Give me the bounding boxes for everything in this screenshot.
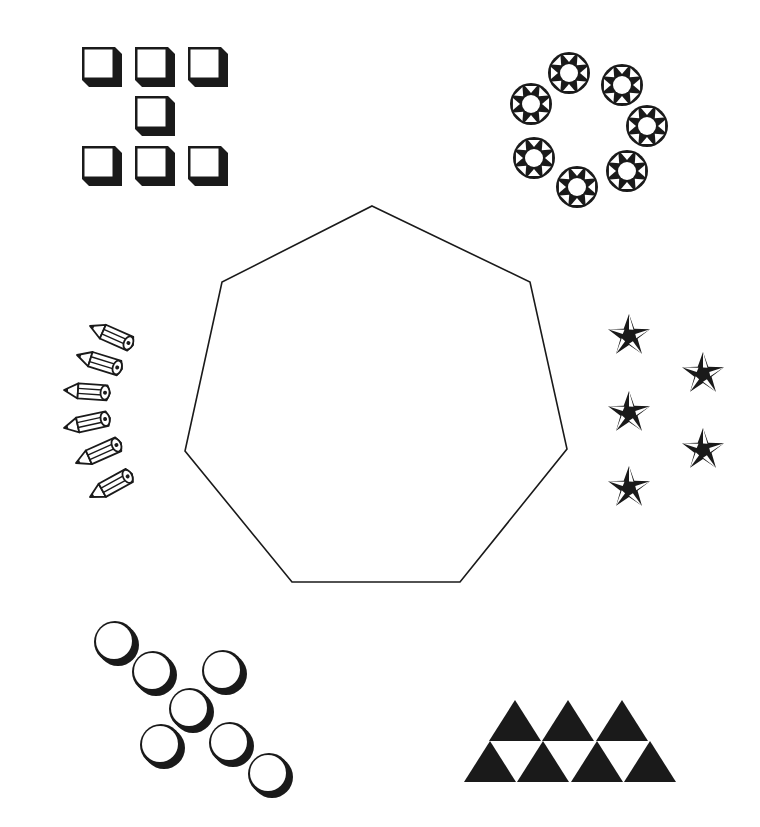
star-group xyxy=(608,314,724,506)
cube-icon xyxy=(188,47,228,87)
cube-icon xyxy=(82,146,122,186)
sun-ring-icon xyxy=(606,150,648,192)
sun-ring-group xyxy=(510,52,668,208)
triangle-icon xyxy=(624,741,676,782)
circle-icon xyxy=(248,753,293,798)
sun-ring-icon xyxy=(513,137,555,179)
circle-group xyxy=(94,621,293,798)
cube-group xyxy=(82,47,228,186)
pencil-icon xyxy=(75,348,124,376)
cube-icon xyxy=(135,47,175,87)
circle-icon xyxy=(209,722,254,767)
sun-ring-icon xyxy=(626,105,668,147)
pencil-icon xyxy=(86,467,135,503)
shape-canvas xyxy=(0,0,760,827)
heptagon-shape xyxy=(185,206,567,582)
star-icon xyxy=(682,352,724,392)
cube-icon xyxy=(82,47,122,87)
circle-icon xyxy=(202,650,247,695)
triangle-icon xyxy=(464,741,516,782)
circle-icon xyxy=(94,621,139,666)
cube-icon xyxy=(188,146,228,186)
sun-ring-icon xyxy=(601,64,643,106)
circle-icon xyxy=(169,688,214,733)
triangle-icon xyxy=(596,700,648,741)
sun-ring-icon xyxy=(548,52,590,94)
triangle-icon xyxy=(489,700,541,741)
pencil-group xyxy=(62,319,136,503)
triangle-group xyxy=(464,700,676,782)
cube-icon xyxy=(135,96,175,136)
pencil-icon xyxy=(73,436,124,470)
triangle-icon xyxy=(571,741,623,782)
star-icon xyxy=(608,466,650,506)
circle-icon xyxy=(132,651,177,696)
pencil-icon xyxy=(64,383,111,401)
triangle-icon xyxy=(517,741,569,782)
star-icon xyxy=(608,314,650,354)
triangle-icon xyxy=(542,700,594,741)
circle-icon xyxy=(140,724,185,769)
pencil-icon xyxy=(87,319,136,352)
star-icon xyxy=(682,428,724,468)
sun-ring-icon xyxy=(556,166,598,208)
star-icon xyxy=(608,391,650,431)
pencil-icon xyxy=(62,411,111,436)
sun-ring-icon xyxy=(510,83,552,125)
cube-icon xyxy=(135,146,175,186)
